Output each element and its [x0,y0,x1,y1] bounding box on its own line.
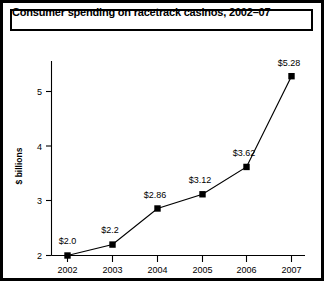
point-label-2002: $2.0 [59,236,77,246]
x-tick-label-2003: 2003 [102,265,122,275]
data-point-marker [154,205,160,211]
x-tick-label-2007: 2007 [281,265,301,275]
chart-frame: Consumer spending on racetrack casinos, … [0,0,324,281]
y-tick-marks [46,92,52,256]
line-chart-plot: 5 4 3 2 2002 2003 2004 2005 2006 2007 $2… [3,3,324,281]
x-tick-marks [68,256,292,263]
y-tick-label-3: 3 [37,196,42,206]
y-tick-label-5: 5 [37,87,42,97]
y-tick-label-4: 4 [37,142,42,152]
data-point-marker [109,241,115,247]
point-label-2006: $3.62 [233,148,256,158]
x-tick-label-2006: 2006 [236,265,256,275]
point-label-2007: $5.28 [278,58,301,68]
point-label-2005: $3.12 [189,175,212,185]
x-tick-label-2004: 2004 [147,265,167,275]
data-point-marker [288,73,294,79]
x-tick-label-2005: 2005 [192,265,212,275]
point-label-2003: $2.2 [101,225,119,235]
y-tick-label-2: 2 [37,251,42,261]
data-point-marker [243,164,249,170]
data-point-markers [64,73,294,259]
data-point-marker [64,252,70,258]
point-label-2004: $2.86 [144,190,167,200]
x-tick-label-2002: 2002 [57,265,77,275]
data-point-marker [199,191,205,197]
